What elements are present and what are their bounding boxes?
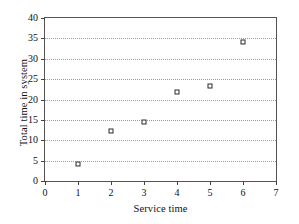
y-gridline xyxy=(45,59,276,60)
x-axis-tick-label: 0 xyxy=(43,188,48,198)
x-axis-tick-label: 5 xyxy=(208,188,213,198)
data-point-marker xyxy=(76,161,81,166)
x-axis-tick-label: 4 xyxy=(175,188,180,198)
x-axis-title: Service time xyxy=(44,203,277,214)
data-point-marker xyxy=(175,90,180,95)
x-axis-tick-label: 2 xyxy=(109,188,114,198)
y-axis-tick-label: 30 xyxy=(28,54,38,64)
x-axis-tick xyxy=(210,181,211,185)
plot-area: 051015202530354001234567 xyxy=(44,17,277,182)
y-gridline xyxy=(45,140,276,141)
data-point-marker xyxy=(109,128,114,133)
x-axis-tick-label: 7 xyxy=(274,188,279,198)
y-axis-tick xyxy=(41,140,45,141)
y-gridline xyxy=(45,100,276,101)
y-axis-tick-label: 35 xyxy=(28,33,38,43)
y-axis-tick-label: 5 xyxy=(33,156,38,166)
x-axis-tick xyxy=(243,181,244,185)
data-point-marker xyxy=(208,84,213,89)
y-axis-tick xyxy=(41,100,45,101)
data-point-marker xyxy=(241,40,246,45)
x-axis-tick-label: 3 xyxy=(142,188,147,198)
y-axis-tick xyxy=(41,59,45,60)
y-axis-tick xyxy=(41,161,45,162)
scatter-chart-figure: Total time in system 0510152025303540012… xyxy=(0,0,299,224)
x-axis-tick xyxy=(111,181,112,185)
x-axis-tick xyxy=(144,181,145,185)
y-axis-tick-label: 10 xyxy=(28,135,38,145)
x-axis-tick xyxy=(78,181,79,185)
y-axis-tick-label: 40 xyxy=(28,13,38,23)
x-axis-tick-label: 1 xyxy=(76,188,81,198)
y-gridline xyxy=(45,79,276,80)
x-axis-tick xyxy=(45,181,46,185)
y-axis-tick-label: 20 xyxy=(28,95,38,105)
y-axis-tick-label: 15 xyxy=(28,115,38,125)
x-axis-tick-label: 6 xyxy=(241,188,246,198)
y-axis-tick xyxy=(41,79,45,80)
x-axis-tick xyxy=(177,181,178,185)
y-axis-tick xyxy=(41,18,45,19)
y-axis-tick xyxy=(41,120,45,121)
x-axis-tick xyxy=(276,181,277,185)
y-axis-title: Total time in system xyxy=(18,23,29,183)
y-axis-tick-label: 25 xyxy=(28,74,38,84)
y-axis-tick-label: 0 xyxy=(33,176,38,186)
y-gridline xyxy=(45,120,276,121)
data-point-marker xyxy=(142,119,147,124)
y-axis-tick xyxy=(41,38,45,39)
